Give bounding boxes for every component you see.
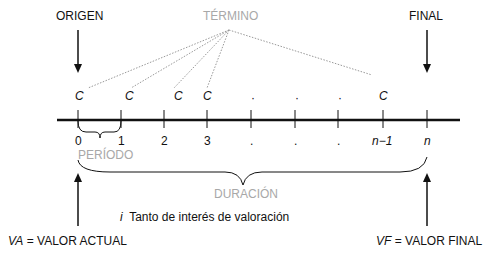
payment-label: C [379,90,388,102]
va-symbol: VA [8,234,23,248]
termino-connector-lines [88,30,372,88]
tick-label: 2 [161,135,168,147]
vf-arrow-icon [423,173,431,226]
vf-label: VF = VALOR FINAL [376,235,482,247]
final-label: FINAL [409,10,443,22]
periodo-label: PERÍODO [78,149,133,161]
interest-note: i Tanto de interés de valoración [120,211,289,223]
origen-arrow-icon [74,30,82,73]
payment-label: C [174,90,183,102]
tick-label: 3 [204,135,211,147]
payment-label: C [125,90,134,102]
va-label: VA = VALOR ACTUAL [8,235,127,247]
tick-label: . [250,135,253,147]
tick-label: 0 [75,135,82,147]
final-arrow-icon [423,30,431,73]
vf-text: = VALOR FINAL [395,234,482,248]
tick-label: . [337,135,340,147]
ellipsis-dot: · [251,92,255,104]
tick-label: . [294,135,297,147]
periodo-brace [78,121,121,138]
vf-symbol: VF [376,234,391,248]
va-arrow-icon [74,173,82,226]
tick-label: n [424,135,431,147]
interest-text: Tanto de interés de valoración [129,210,289,224]
duracion-label: DURACIÓN [214,188,278,200]
va-text: = VALOR ACTUAL [27,234,127,248]
ellipsis-dot: · [295,92,299,104]
tick-label: n−1 [372,135,392,147]
origen-label: ORIGEN [56,10,103,22]
interest-symbol: i [120,210,123,224]
payment-label: C [203,90,212,102]
ellipsis-dot: · [338,92,342,104]
payment-label: C [75,90,84,102]
termino-label: TÉRMINO [203,10,258,22]
tick-label: 1 [118,135,125,147]
